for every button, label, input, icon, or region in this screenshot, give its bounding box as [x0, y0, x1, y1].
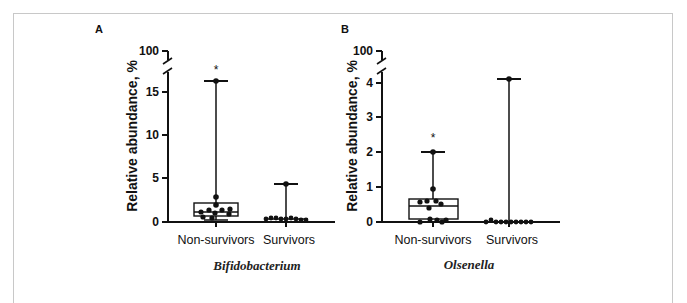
panel-a-letter: A [95, 23, 103, 35]
panel-a-significance-star: * [214, 63, 219, 77]
panel-b-ytick-4: 4 [366, 76, 373, 90]
panel-a-ytick-15: 15 [146, 85, 160, 99]
panel-a: A Relative abundance, % 100 15 10 5 0 [95, 23, 335, 273]
panel-b-y-axis [376, 51, 560, 227]
panel-a-xcat-survivors: Survivors [263, 233, 315, 247]
panel-b-ytick-0: 0 [366, 215, 373, 229]
panel-a-y-axis [162, 51, 335, 227]
panel-b-ytick-3: 3 [366, 110, 373, 124]
panel-b-genus-label: Olsenella [444, 257, 495, 272]
panel-b-box-survivors [497, 79, 521, 226]
panel-b-ylabel: Relative abundance, % [344, 60, 360, 212]
panel-a-ytick-5: 5 [152, 171, 159, 185]
panel-a-xcat-non-survivors: Non-survivors [177, 233, 254, 247]
panel-a-ytick-10: 10 [146, 128, 160, 142]
panel-b-xcat-survivors: Survivors [486, 233, 538, 247]
panel-b-letter: B [341, 23, 349, 35]
panel-a-ytick-0: 0 [152, 215, 159, 229]
panel-b-significance-star: * [431, 131, 436, 145]
panel-a-ylabel: Relative abundance, % [124, 60, 140, 212]
panel-b-ytick-2: 2 [366, 145, 373, 159]
panel-b-box-non-survivors [409, 152, 458, 219]
panel-b-xcat-non-survivors: Non-survivors [394, 233, 471, 247]
panel-a-ytick-100: 100 [139, 44, 159, 58]
panel-b-ytick-1: 1 [366, 180, 373, 194]
panel-b: B Relative abundance, % 100 4 3 2 1 0 [341, 23, 560, 272]
panel-b-ytick-100: 100 [353, 44, 373, 58]
panel-a-genus-label: Bifidobacterium [212, 258, 300, 273]
